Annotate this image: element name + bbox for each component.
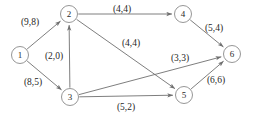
edge-label-3-to-5: (5,2) <box>117 102 135 113</box>
node-6[interactable]: 6 <box>224 46 241 63</box>
edge-label-3-to-2: (2,0) <box>45 51 63 62</box>
node-label-4: 4 <box>181 9 186 19</box>
node-1[interactable]: 1 <box>12 47 29 64</box>
node-5[interactable]: 5 <box>176 87 193 104</box>
node-label-3: 3 <box>68 92 73 102</box>
edge-2-to-5 <box>77 19 175 88</box>
edge-label-5-to-6: (6,6) <box>207 75 225 86</box>
edge-labels-layer: (9,8)(8,5)(2,0)(4,4)(4,4)(3,3)(5,2)(5,4)… <box>21 4 225 113</box>
network-flow-diagram: 123456 (9,8)(8,5)(2,0)(4,4)(4,4)(3,3)(5,… <box>0 0 253 118</box>
edge-label-2-to-4: (4,4) <box>113 4 131 15</box>
node-label-6: 6 <box>230 49 235 59</box>
node-label-2: 2 <box>67 9 72 19</box>
node-label-5: 5 <box>182 90 187 100</box>
edge-label-2-to-5: (4,4) <box>122 38 140 49</box>
edge-3-to-5 <box>79 95 173 97</box>
network-graph-canvas: 123456 (9,8)(8,5)(2,0)(4,4)(4,4)(3,3)(5,… <box>0 0 253 118</box>
edge-label-1-to-3: (8,5) <box>24 77 42 88</box>
node-label-1: 1 <box>18 50 23 60</box>
node-3[interactable]: 3 <box>62 89 79 106</box>
edge-label-1-to-2: (9,8) <box>21 17 39 28</box>
edge-label-3-to-6: (3,3) <box>171 53 189 64</box>
edge-3-to-6 <box>79 57 221 95</box>
node-4[interactable]: 4 <box>175 6 192 23</box>
edge-label-4-to-6: (5,4) <box>205 23 223 34</box>
node-2[interactable]: 2 <box>61 6 78 23</box>
edge-3-to-2 <box>69 25 70 88</box>
